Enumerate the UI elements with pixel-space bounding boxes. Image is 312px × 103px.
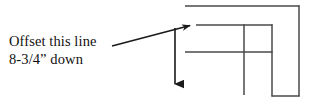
leader-arrow <box>112 26 190 47</box>
profile-outline <box>185 5 300 96</box>
leader-arrow-shaft <box>112 26 190 47</box>
drawing-annotation-screenshot: Offset this line 8-3/4” down <box>0 0 312 103</box>
technical-drawing <box>0 0 312 103</box>
